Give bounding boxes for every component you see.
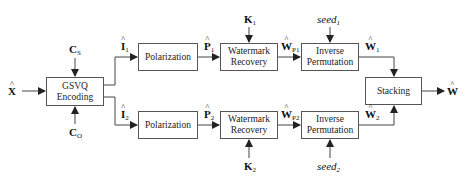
polarization-2-label: Polarization — [145, 120, 191, 131]
signal-x-hat: X — [8, 85, 16, 97]
watermark-recovery-block-1: Watermark Recovery — [220, 43, 278, 71]
ip1-label-line2: Permutation — [307, 57, 353, 68]
ip2-label-line2: Permutation — [307, 125, 353, 136]
signal-seed1: seed1 — [317, 13, 340, 29]
stacking-block: Stacking — [365, 77, 422, 105]
polarization-block-2: Polarization — [138, 111, 198, 139]
wm2-label-line1: Watermark — [228, 114, 270, 125]
gsvq-encoding-block: GSVQ Encoding — [46, 77, 104, 106]
polarization-1-label: Polarization — [145, 52, 191, 63]
signal-seed2: seed2 — [317, 160, 340, 176]
signal-p2-hat: P2 — [204, 108, 214, 124]
ip1-label-line1: Inverse — [316, 46, 344, 57]
ip2-label-line1: Inverse — [316, 114, 344, 125]
signal-w-hat-output: W — [447, 85, 458, 97]
inverse-permutation-block-1: Inverse Permutation — [301, 43, 359, 71]
signal-w1-hat: W1 — [365, 40, 380, 56]
signal-i2-hat: I2 — [121, 108, 129, 124]
signal-wp1-hat: WP1 — [281, 40, 299, 56]
gsvq-label-line2: Encoding — [57, 92, 93, 103]
gsvq-label-line1: GSVQ — [62, 81, 88, 92]
wm1-label-line1: Watermark — [228, 46, 270, 57]
signal-co: CO — [69, 126, 82, 142]
wm1-label-line2: Recovery — [231, 57, 267, 68]
stacking-label: Stacking — [377, 86, 410, 97]
signal-k1: K1 — [244, 13, 256, 29]
watermark-recovery-block-2: Watermark Recovery — [220, 111, 278, 139]
signal-cs: CS — [69, 43, 81, 59]
inverse-permutation-block-2: Inverse Permutation — [301, 111, 359, 139]
signal-i1-hat: I1 — [121, 40, 129, 56]
wm2-label-line2: Recovery — [231, 125, 267, 136]
signal-wp2-hat: WP2 — [281, 108, 299, 124]
signal-w2-hat: W2 — [365, 108, 380, 124]
signal-p1-hat: P1 — [204, 40, 214, 56]
polarization-block-1: Polarization — [138, 43, 198, 71]
signal-k2: K2 — [244, 160, 256, 176]
